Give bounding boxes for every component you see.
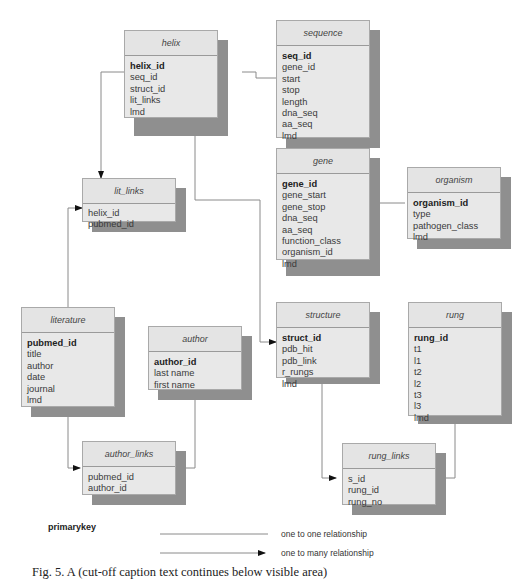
field: aa_seq [282, 225, 369, 236]
field: start [282, 74, 369, 85]
primary-key-field: rung_id [414, 333, 501, 344]
line-structure-rungslinks [322, 382, 336, 478]
table-title: rung_links [343, 444, 435, 469]
legend-primary-key: primarykey [48, 522, 96, 532]
field: pubmed_id [88, 219, 175, 230]
field: first name [154, 380, 241, 391]
primary-key-field: gene_id [282, 179, 369, 190]
field: lmd [282, 131, 369, 142]
field: lmd [27, 395, 114, 406]
table-title: helix [125, 31, 217, 56]
field: pdb_hit [282, 344, 369, 355]
primary-key-field: helix_id [130, 61, 217, 72]
field: lmd [282, 259, 369, 270]
field: author_id [88, 483, 175, 494]
field: l1 [414, 356, 501, 367]
primary-key-field: organism_id [413, 198, 500, 209]
field: type [413, 209, 500, 220]
field: organism_id [282, 247, 369, 258]
field: dna_seq [282, 213, 369, 224]
primary-key-field: pubmed_id [27, 338, 114, 349]
primary-key-field: struct_id [282, 333, 369, 344]
line-literature-authorlinks [68, 408, 80, 468]
field: lmd [282, 379, 369, 390]
field: lmd [413, 232, 500, 243]
table-title: organism [408, 168, 500, 193]
field: rung_id [348, 485, 435, 496]
field: pubmed_id [88, 472, 175, 483]
field: s_id [348, 474, 435, 485]
field: journal [27, 384, 114, 395]
table-title: author_links [83, 442, 175, 467]
field: gene_start [282, 190, 369, 201]
table-title: sequence [277, 21, 369, 46]
field: title [27, 349, 114, 360]
field: rung_no [348, 497, 435, 508]
table-title: structure [277, 303, 369, 328]
field: helix_id [88, 208, 175, 219]
table-title: rung [409, 303, 501, 328]
table-title: author [149, 327, 241, 352]
field: gene_id [282, 62, 369, 73]
field: seq_id [130, 72, 217, 83]
legend-one-to-one-label: one to one relationship [281, 529, 367, 539]
table-title: lit_links [83, 179, 175, 204]
field: gene_stop [282, 202, 369, 213]
field: t2 [414, 367, 501, 378]
field: aa_seq [282, 119, 369, 130]
field: lit_links [130, 95, 217, 106]
line-helix-litlinks [101, 72, 125, 178]
primary-key-field: seq_id [282, 51, 369, 62]
field: last name [154, 368, 241, 379]
field: t1 [414, 344, 501, 355]
line-literature-litlinks [68, 208, 82, 307]
table-title: literature [22, 308, 114, 333]
field: dna_seq [282, 108, 369, 119]
field: pdb_link [282, 356, 369, 367]
field: function_class [282, 236, 369, 247]
field: length [282, 97, 369, 108]
field: l2 [414, 379, 501, 390]
line-helix-sequence [242, 72, 276, 78]
field: pathogen_class [413, 221, 500, 232]
legend-one-to-many-label: one to many relationship [281, 548, 374, 558]
table-title: gene [277, 149, 369, 174]
field: t3 [414, 390, 501, 401]
line-helix-structure [195, 118, 276, 342]
field: date [27, 372, 114, 383]
figure-caption: Fig. 5. A (cut-off caption text continue… [32, 565, 327, 580]
field: l3 [414, 401, 501, 412]
field: lmd [414, 413, 501, 424]
field: author [27, 361, 114, 372]
field: struct_id [130, 84, 217, 95]
primary-key-field: author_id [154, 357, 241, 368]
field: lmd [130, 107, 217, 118]
field: r_rungs [282, 367, 369, 378]
field: stop [282, 85, 369, 96]
